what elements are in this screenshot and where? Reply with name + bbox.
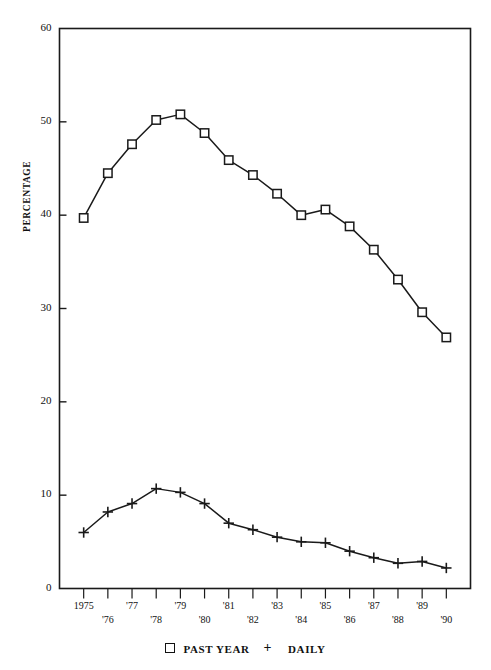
x-tick-label: '80 (199, 614, 211, 625)
x-tick-label: '79 (174, 600, 186, 611)
x-tick-label: '78 (150, 614, 162, 625)
legend-square-icon (165, 643, 175, 653)
y-axis-title: PERCENTAGE (22, 161, 32, 232)
series-past-year (79, 110, 450, 341)
x-tick-label: '83 (271, 600, 283, 611)
x-tick-label: '84 (295, 614, 307, 625)
chart-figure: PERCENTAGE 0102030405060 1975'76'77'78'7… (0, 0, 491, 670)
x-tick-label: '87 (368, 600, 380, 611)
x-tick-label: 1975 (74, 600, 94, 611)
top-caption (0, 0, 491, 14)
x-tick-label: '90 (440, 614, 452, 625)
y-tick-label: 20 (26, 394, 52, 406)
x-tick-label: '89 (416, 600, 428, 611)
y-tick-label: 50 (26, 114, 52, 126)
legend-plus-icon: + (263, 640, 272, 656)
y-tick-label: 0 (26, 581, 52, 593)
chart-legend: PAST YEAR+DAILY (0, 641, 491, 657)
y-tick-label: 10 (26, 487, 52, 499)
plot-area (0, 0, 491, 670)
y-tick-label: 40 (26, 207, 52, 219)
x-tick-label: '82 (247, 614, 259, 625)
legend-label-past-year: PAST YEAR (183, 643, 249, 655)
legend-label-daily: DAILY (288, 643, 325, 655)
series-daily (78, 483, 451, 573)
x-tick-label: '86 (344, 614, 356, 625)
x-tick-label: '88 (392, 614, 404, 625)
x-tick-label: '77 (126, 600, 138, 611)
y-tick-label: 60 (26, 21, 52, 33)
x-tick-label: '85 (320, 600, 332, 611)
y-tick-label: 30 (26, 301, 52, 313)
x-tick-label: '76 (102, 614, 114, 625)
x-tick-label: '81 (223, 600, 235, 611)
